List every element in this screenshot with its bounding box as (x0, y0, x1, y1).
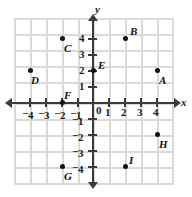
y-tick (88, 134, 97, 136)
x-axis-arrow-left (5, 98, 12, 108)
y-tick (88, 86, 97, 88)
y-tick-label-neg1: –1 (73, 113, 84, 127)
y-tick (88, 166, 97, 168)
point-label-G: G (64, 171, 72, 182)
point-I (123, 164, 128, 169)
point-label-B: B (130, 26, 137, 37)
point-label-D: D (31, 75, 39, 86)
y-tick-label-pos2: 2 (79, 65, 85, 76)
x-tick-label-pos3: 3 (137, 107, 143, 118)
y-axis-arrow-up (88, 14, 98, 21)
point-label-I: I (129, 155, 133, 166)
x-tick-label-pos4: 4 (153, 107, 159, 118)
y-tick (88, 38, 97, 40)
y-axis-arrow-down (88, 182, 98, 189)
y-tick-label-pos4: 4 (79, 33, 85, 44)
point-H (155, 132, 160, 137)
point-A (155, 68, 160, 73)
y-tick (88, 54, 97, 56)
x-tick-label-pos2: 2 (121, 107, 127, 118)
point-label-H: H (159, 139, 168, 150)
point-label-A: A (159, 75, 166, 86)
point-E (91, 68, 96, 73)
gridline-vertical (14, 18, 16, 183)
x-axis-arrow-right (174, 98, 181, 108)
y-tick (88, 150, 97, 152)
x-tick-label-neg4: –4 (23, 107, 34, 121)
y-tick (88, 118, 97, 120)
x-axis-label: x (181, 97, 187, 108)
gridline-horizontal (14, 50, 174, 52)
origin-label: 0 (96, 105, 102, 116)
x-tick-label-pos1: 1 (105, 107, 111, 118)
point-label-E: E (98, 60, 105, 71)
point-D (28, 68, 33, 73)
y-tick-label-neg2: –2 (73, 129, 84, 143)
x-tick (77, 98, 79, 107)
point-G (60, 164, 65, 169)
y-tick-label-pos1: 1 (79, 81, 85, 92)
point-B (123, 36, 128, 41)
point-C (60, 36, 65, 41)
y-axis (92, 20, 94, 183)
point-label-F: F (64, 90, 71, 101)
point-label-C: C (64, 43, 71, 54)
x-tick-label-neg2: –2 (55, 107, 66, 121)
x-tick (45, 98, 47, 107)
y-tick-label-neg4: –4 (73, 161, 84, 175)
x-tick (29, 98, 31, 107)
y-tick-label-pos3: 3 (79, 49, 85, 60)
x-tick-label-neg3: –3 (39, 107, 50, 121)
gridline-horizontal (14, 34, 174, 36)
coordinate-plane: –4 –3 –2 –1 1 2 3 4 4 3 2 1 –1 –2 –3 –4 … (0, 0, 192, 197)
y-axis-label: y (95, 4, 100, 15)
y-tick-label-neg3: –3 (73, 145, 84, 159)
